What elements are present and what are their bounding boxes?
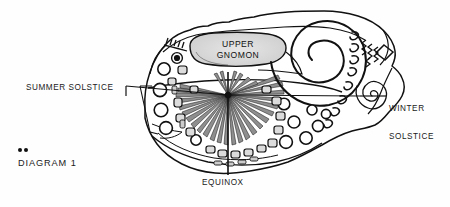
cupmark-circle	[300, 132, 312, 144]
cupmark-circle	[158, 63, 170, 75]
caption-bullet-dot	[18, 148, 22, 152]
small-block-glyph	[250, 157, 258, 161]
label-winter-solstice-line1: WINTER	[389, 104, 434, 113]
block-glyph	[244, 149, 253, 156]
block-glyph	[178, 66, 187, 74]
small-block-glyph	[214, 161, 222, 165]
diagram-page: UPPER GNOMON	[0, 0, 450, 207]
block-glyph	[168, 78, 176, 85]
block-glyph	[186, 128, 195, 136]
block-glyph	[218, 150, 227, 157]
cupmark-circle	[288, 116, 300, 128]
block-glyph	[206, 146, 215, 153]
gnomon-center-point	[225, 92, 231, 98]
diagram-caption-bullets	[18, 148, 34, 155]
label-winter-solstice: WINTER SOLSTICE	[389, 86, 434, 160]
label-winter-solstice-line2: SOLSTICE	[389, 132, 434, 141]
small-block-glyph	[180, 120, 185, 128]
cupmark-circle	[312, 120, 323, 131]
upper-gnomon-label-line2: GNOMON	[217, 50, 260, 60]
cupmark-circle	[160, 122, 173, 135]
cupmark-circle	[321, 109, 330, 118]
label-equinox: EQUINOX	[202, 178, 244, 187]
block-glyph	[257, 145, 266, 152]
block-glyph	[274, 126, 283, 134]
upper-gnomon-label-line1: UPPER	[222, 39, 254, 49]
caption-bullet-dot	[24, 148, 28, 152]
block-glyph	[231, 151, 240, 158]
diagram-caption: DIAGRAM 1	[18, 158, 77, 168]
cupmark-circle	[307, 105, 317, 115]
petroglyph-figure: UPPER GNOMON	[0, 0, 450, 207]
cupmark-circle	[154, 103, 168, 117]
label-summer-solstice: SUMMER SOLSTICE	[26, 83, 113, 92]
small-block-glyph	[238, 160, 246, 164]
block-glyph	[262, 86, 271, 93]
block-glyph	[174, 98, 182, 107]
block-glyph	[276, 112, 285, 120]
cupmark-circle	[280, 136, 293, 149]
block-glyph	[268, 139, 277, 147]
concentric-cupmark-inner	[175, 56, 180, 61]
block-glyph	[272, 97, 281, 105]
